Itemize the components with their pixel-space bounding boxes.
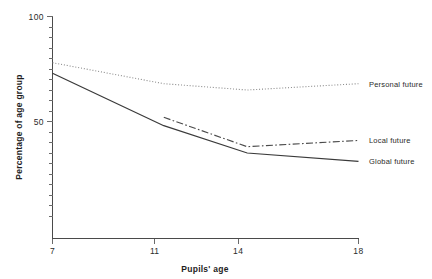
- y-tick-label-50: 50: [34, 117, 44, 127]
- x-tick-label-7: 7: [50, 246, 55, 256]
- y-axis-title: Percentage of age group: [14, 74, 24, 179]
- series-line-global-future: [53, 73, 359, 161]
- x-axis-title: Pupils' age: [181, 264, 228, 274]
- series-line-personal-future: [53, 63, 359, 90]
- x-tick-label-18: 18: [353, 246, 363, 256]
- line-chart: Personal future Local future Global futu…: [0, 0, 432, 279]
- series-label-global-future: Global future: [369, 157, 415, 166]
- chart-container: Personal future Local future Global futu…: [0, 0, 432, 279]
- chart-axes: [53, 17, 359, 239]
- series-label-local-future: Local future: [369, 136, 411, 145]
- x-tick-label-11: 11: [150, 246, 160, 256]
- series-label-personal-future: Personal future: [369, 80, 423, 89]
- x-tick-label-14: 14: [233, 246, 243, 256]
- series-line-local-future: [164, 117, 359, 146]
- x-axis-ticks: [53, 239, 359, 245]
- y-tick-label-100: 100: [29, 12, 44, 22]
